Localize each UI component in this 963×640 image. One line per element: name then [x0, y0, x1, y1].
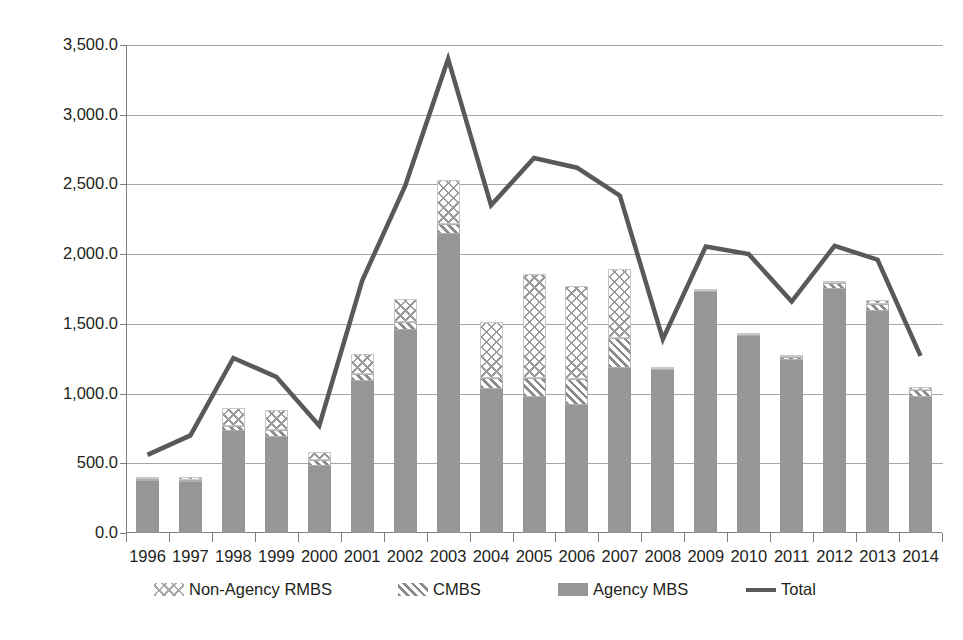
- solid-gray-swatch-icon: [558, 583, 588, 596]
- x-axis-tick: [555, 533, 556, 542]
- x-axis-tick: [942, 533, 943, 542]
- x-axis-tick-label: 2010: [727, 545, 770, 568]
- x-axis-tick-label: 1997: [169, 545, 212, 568]
- y-axis-tick-label: 3,000.0: [63, 106, 118, 123]
- x-axis-tick: [470, 533, 471, 542]
- x-axis-tick: [384, 533, 385, 542]
- y-axis-tick-label: 2,500.0: [63, 175, 118, 192]
- diagonal-hatch-swatch-icon: [398, 583, 428, 596]
- line-swatch-icon: [746, 588, 776, 592]
- x-axis-tick-label: 2002: [384, 545, 427, 568]
- y-axis-tick-label: 2,000.0: [63, 245, 118, 262]
- x-axis-tick-label: 2011: [770, 545, 813, 568]
- x-axis-tick-label: 2014: [899, 545, 942, 568]
- y-axis-tick-label: 500.0: [77, 454, 118, 471]
- legend-label: Non-Agency RMBS: [189, 580, 332, 599]
- stacked-bar-line-chart: 0.0500.01,000.01,500.02,000.02,500.03,00…: [0, 0, 963, 640]
- legend-item[interactable]: CMBS: [398, 578, 481, 600]
- x-axis-tick: [255, 533, 256, 542]
- x-axis-tick: [513, 533, 514, 542]
- x-axis-tick: [126, 533, 127, 542]
- x-axis-tick: [856, 533, 857, 542]
- x-axis-tick-label: 1998: [212, 545, 255, 568]
- x-axis-tick: [341, 533, 342, 542]
- x-axis-tick: [727, 533, 728, 542]
- x-axis-tick: [899, 533, 900, 542]
- legend-item[interactable]: Total: [746, 578, 816, 600]
- x-axis-tick: [427, 533, 428, 542]
- x-axis-tick-label: 2008: [641, 545, 684, 568]
- legend-label: CMBS: [433, 580, 481, 599]
- x-axis-tick: [169, 533, 170, 542]
- total-line-series: [126, 45, 942, 533]
- y-axis-tick-label: 1,500.0: [63, 315, 118, 332]
- x-axis-tick-label: 2009: [684, 545, 727, 568]
- x-axis-tick-label: 2007: [598, 545, 641, 568]
- x-axis-tick: [298, 533, 299, 542]
- x-axis-tick-label: 1999: [255, 545, 298, 568]
- x-axis-tick: [813, 533, 814, 542]
- x-axis-tick-label: 2000: [298, 545, 341, 568]
- x-axis-tick-label: 2012: [813, 545, 856, 568]
- x-axis-tick-label: 2006: [555, 545, 598, 568]
- y-axis-labels: 0.0500.01,000.01,500.02,000.02,500.03,00…: [0, 0, 118, 640]
- legend-label: Agency MBS: [593, 580, 688, 599]
- x-axis-tick-label: 1996: [126, 545, 169, 568]
- x-axis-tick: [212, 533, 213, 542]
- x-axis-tick-label: 2005: [513, 545, 556, 568]
- y-axis-tick-label: 1,000.0: [63, 385, 118, 402]
- x-axis-tick: [684, 533, 685, 542]
- x-axis-tick-label: 2003: [427, 545, 470, 568]
- x-axis-tick-label: 2004: [470, 545, 513, 568]
- legend-item[interactable]: Non-Agency RMBS: [154, 578, 332, 600]
- x-axis-tick: [641, 533, 642, 542]
- chart-legend: Non-Agency RMBSCMBSAgency MBSTotal: [126, 578, 942, 604]
- legend-label: Total: [781, 580, 816, 599]
- x-axis-tick: [770, 533, 771, 542]
- x-axis-ticks: [126, 533, 942, 542]
- y-axis-tick-label: 0.0: [95, 524, 118, 541]
- cross-hatch-swatch-icon: [154, 583, 184, 596]
- x-axis-labels: 1996199719981999200020012002200320042005…: [126, 545, 942, 571]
- x-axis-tick-label: 2001: [341, 545, 384, 568]
- x-axis-tick-label: 2013: [856, 545, 899, 568]
- x-axis-tick: [598, 533, 599, 542]
- legend-item[interactable]: Agency MBS: [558, 578, 688, 600]
- y-axis-tick-label: 3,500.0: [63, 36, 118, 53]
